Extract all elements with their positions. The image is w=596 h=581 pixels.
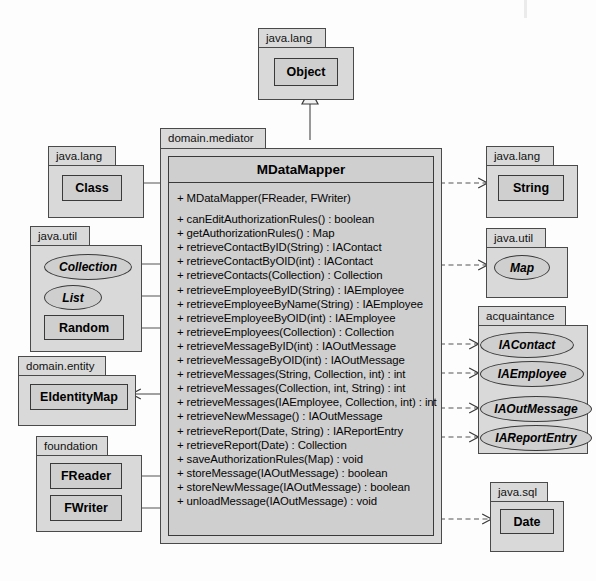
package-tab-label: java.util [30, 226, 90, 246]
member-row: + retrieveMessages(String, Collection, i… [177, 367, 433, 381]
class-class[interactable]: Class [62, 175, 122, 201]
class-freader[interactable]: FReader [50, 463, 122, 489]
package-tab-label: foundation [36, 436, 108, 456]
package-tab-label: java.sql [490, 482, 548, 502]
package-domain-entity: domain.entity EIdentityMap [18, 356, 136, 426]
class-object[interactable]: Object [274, 58, 338, 86]
member-row: + unloadMessage(IAOutMessage) : void [177, 494, 433, 508]
class-title: MDataMapper [169, 157, 433, 183]
package-tab-label: java.lang [48, 146, 116, 166]
interface-map[interactable]: Map [494, 255, 550, 280]
member-row: + retrieveMessageByID(int) : IAOutMessag… [177, 339, 433, 353]
class-string[interactable]: String [498, 175, 564, 201]
member-row: + retrieveMessages(IAEmployee, Collectio… [177, 395, 433, 409]
member-row: + canEditAuthorizationRules() : boolean [177, 212, 433, 226]
member-row: + retrieveReport(Date, String) : IARepor… [177, 424, 433, 438]
member-row: + retrieveMessages(Collection, int, Stri… [177, 381, 433, 395]
member-row: + MDataMapper(FReader, FWriter) [177, 191, 433, 205]
member-row: + retrieveContacts(Collection) : Collect… [177, 268, 433, 282]
package-java-lang-object: java.lang Object [258, 28, 354, 100]
member-row: + retrieveNewMessage() : IAOutMessage [177, 409, 433, 423]
member-row: + retrieveContactByID(String) : IAContac… [177, 240, 433, 254]
member-row: + retrieveEmployees(Collection) : Collec… [177, 325, 433, 339]
class-date[interactable]: Date [500, 509, 554, 534]
interface-iacontact[interactable]: IAContact [480, 332, 574, 358]
member-row: + retrieveReport(Date) : Collection [177, 438, 433, 452]
package-tab-label: domain.entity [18, 356, 106, 376]
package-foundation: foundation FReader FWriter [36, 436, 142, 532]
class-random[interactable]: Random [44, 315, 124, 340]
member-row-spacer [177, 205, 433, 212]
package-java-util-right: java.util Map [478, 228, 576, 298]
member-row: + retrieveContactByOID(int) : IAContact [177, 254, 433, 268]
member-row: + storeNewMessage(IAOutMessage) : boolea… [177, 480, 433, 494]
class-members-compartment: + MDataMapper(FReader, FWriter) + canEdi… [169, 184, 433, 535]
package-tab-label: java.lang [258, 28, 326, 48]
package-java-util-left: java.util Collection List Random [30, 226, 142, 352]
interface-iaemployee[interactable]: IAEmployee [480, 361, 584, 387]
member-row: + retrieveEmployeeByID(String) : IAEmplo… [177, 283, 433, 297]
member-row: + retrieveEmployeeByName(String) : IAEmp… [177, 297, 433, 311]
member-row: + getAuthorizationRules() : Map [177, 226, 433, 240]
interface-list[interactable]: List [44, 285, 102, 310]
member-row: + storeMessage(IAOutMessage) : boolean [177, 466, 433, 480]
interface-collection[interactable]: Collection [44, 254, 132, 280]
interface-iareportentry[interactable]: IAReportEntry [480, 425, 592, 451]
class-mdatamapper[interactable]: MDataMapper + MDataMapper(FReader, FWrit… [168, 156, 434, 536]
member-row: + retrieveEmployeeByOID(int) : IAEmploye… [177, 311, 433, 325]
package-domain-mediator: domain.mediator MDataMapper + MDataMappe… [160, 128, 442, 544]
package-tab-label: java.util [486, 228, 546, 248]
member-row: + retrieveMessageByOID(int) : IAOutMessa… [177, 353, 433, 367]
member-row: + saveAuthorizationRules(Map) : void [177, 452, 433, 466]
scan-artifact [524, 0, 527, 18]
package-java-lang-string: java.lang String [478, 146, 578, 218]
package-java-sql: java.sql Date [482, 482, 574, 552]
package-tab-label: domain.mediator [160, 128, 266, 149]
package-acquaintance: acquaintance IAContact IAEmployee IAOutM… [470, 306, 596, 454]
package-tab-label: acquaintance [478, 306, 566, 326]
class-eidentitymap[interactable]: EIdentityMap [30, 384, 128, 410]
interface-iaoutmessage[interactable]: IAOutMessage [480, 396, 592, 422]
class-fwriter[interactable]: FWriter [50, 495, 122, 521]
package-tab-label: java.lang [486, 146, 554, 166]
package-java-lang-class: java.lang Class [48, 146, 144, 218]
uml-diagram-canvas: java.lang Object java.lang Class java.ut… [0, 0, 596, 581]
